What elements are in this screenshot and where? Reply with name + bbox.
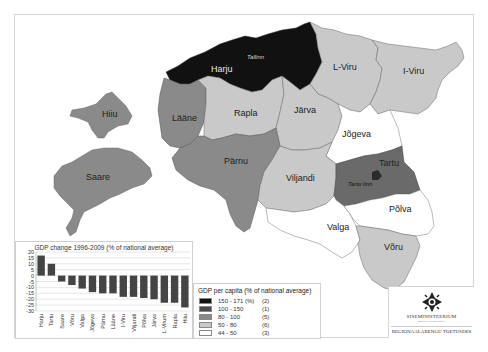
- chart-bar: [58, 276, 65, 282]
- chart-plot: 20151050-5-10-15-20-25-30HarjuTartuSaare…: [16, 242, 194, 340]
- chart-bar: [48, 264, 55, 276]
- x-tick-label: Harju: [38, 314, 44, 327]
- x-tick-label: Tartu: [48, 314, 54, 326]
- region-i-viru[interactable]: [370, 40, 464, 114]
- legend-title: GDP per capita (% of national average): [198, 287, 311, 294]
- ministry-logo: SISEMINISTEERIUM ministry of internal af…: [388, 286, 474, 338]
- legend-item: 150 - 171 (%) (2): [199, 297, 269, 304]
- chart-bar: [79, 276, 86, 289]
- chart-bar: [109, 276, 116, 294]
- legend-range: 44 - 50: [218, 330, 262, 336]
- x-tick-label: L-Virum: [161, 314, 167, 334]
- x-tick-label: Põlva: [141, 313, 147, 328]
- region-voru[interactable]: [356, 226, 420, 290]
- legend: GDP per capita (% of national average) 1…: [193, 283, 321, 339]
- x-tick-label: Hiiu: [182, 314, 188, 323]
- chart-bar: [120, 276, 127, 297]
- chart-bar: [99, 276, 106, 294]
- x-tick-label: Järva: [151, 313, 157, 327]
- legend-swatch: [199, 330, 212, 336]
- label-voru: Võru: [384, 242, 403, 252]
- legend-swatch: [199, 314, 212, 320]
- region-saare[interactable]: [54, 148, 152, 236]
- label-tartu-linn: Tartu linn: [348, 181, 373, 187]
- legend-range: 80 - 100: [218, 314, 262, 320]
- x-tick-label: Lääne: [110, 314, 116, 329]
- logo-divider: [391, 326, 472, 327]
- legend-range: 100 - 150: [218, 306, 262, 312]
- x-tick-label: Jõgeva: [89, 313, 95, 332]
- legend-count: (2): [262, 298, 269, 304]
- x-tick-label: Pärnu: [100, 314, 106, 329]
- region-harju[interactable]: [166, 22, 322, 92]
- legend-count: (1): [262, 306, 269, 312]
- label-jogeva: Jõgeva: [342, 129, 371, 139]
- label-l-viru: L-Viru: [333, 62, 357, 72]
- legend-item: 80 - 100 (5): [199, 313, 269, 320]
- x-tick-label: Rapla: [172, 313, 178, 328]
- label-viljandi: Viljandi: [286, 173, 315, 183]
- label-parnu: Pärnu: [224, 156, 248, 166]
- label-polva: Põlva: [389, 204, 412, 214]
- chart-bar: [171, 276, 178, 303]
- chart-bar: [89, 276, 96, 293]
- label-valga: Valga: [327, 222, 349, 232]
- chart-bar: [161, 276, 168, 303]
- legend-item: 50 - 80 (6): [199, 321, 269, 328]
- x-tick-label: Viljandi: [131, 314, 137, 332]
- legend-count: (6): [262, 322, 269, 328]
- legend-swatch: [199, 322, 212, 328]
- legend-range: 50 - 80: [218, 322, 262, 328]
- chart-bar: [150, 276, 157, 300]
- y-tick-label: -30: [26, 308, 34, 314]
- label-tartu: Tartu: [379, 158, 399, 168]
- chart-bar: [130, 276, 137, 297]
- label-rapla: Rapla: [234, 108, 258, 118]
- legend-count: (3): [262, 330, 269, 336]
- x-tick-label: Võru: [69, 314, 75, 326]
- legend-item: 44 - 50 (3): [199, 329, 269, 336]
- label-jarva: Järva: [294, 105, 316, 115]
- chart-bar: [37, 256, 44, 276]
- legend-count: (5): [262, 314, 269, 320]
- x-tick-label: I-Viru: [120, 314, 126, 327]
- gdp-change-chart: GDP change 1996-2009 (% of national aver…: [15, 241, 193, 339]
- label-tallinn: Tallinn: [247, 54, 265, 60]
- logo-department: REGIONAALARENGU TOETUSEKS: [389, 329, 474, 334]
- chart-bar: [140, 276, 147, 298]
- label-i-viru: I-Viru: [403, 66, 424, 76]
- ministry-emblem-icon: [389, 287, 475, 315]
- logo-name: SISEMINISTEERIUM: [389, 314, 474, 319]
- x-tick-label: Valga: [79, 313, 85, 328]
- legend-item: 100 - 150 (1): [199, 305, 269, 312]
- label-harju: Harju: [211, 64, 233, 74]
- x-tick-label: Saare: [59, 314, 65, 329]
- legend-swatch: [199, 306, 212, 312]
- label-saare: Saare: [86, 172, 110, 182]
- label-laane: Lääne: [172, 113, 197, 123]
- chart-bar: [181, 276, 188, 308]
- region-hiiu[interactable]: [70, 92, 132, 138]
- legend-swatch: [199, 298, 212, 304]
- chart-bar: [68, 276, 75, 285]
- logo-subtitle: ministry of internal affairs: [389, 320, 474, 323]
- legend-range: 150 - 171 (%): [218, 298, 262, 304]
- label-hiiu: Hiiu: [102, 109, 118, 119]
